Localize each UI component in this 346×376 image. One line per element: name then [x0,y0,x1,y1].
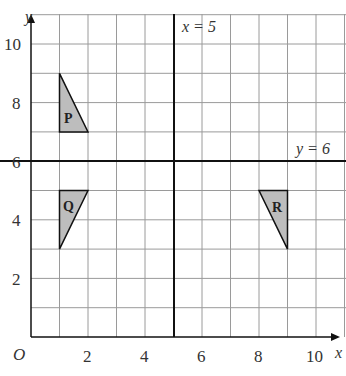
grid-lines [31,14,346,337]
x-axis-label: x [334,344,342,361]
x-tick-6: 6 [197,347,206,366]
y-tick-6: 6 [12,153,21,172]
y-tick-4: 4 [12,211,21,230]
x-tick-2: 2 [83,347,92,366]
y-tick-10: 10 [4,35,21,54]
label-x-5: x = 5 [181,18,216,35]
y-axis-label: y [23,8,33,26]
x-tick-10: 10 [306,347,323,366]
coordinate-grid: P Q R x = 5 y = 6 y x O 2 4 6 8 10 2 4 6… [0,0,346,376]
x-tick-4: 4 [140,347,149,366]
label-q: Q [63,199,74,214]
origin-label: O [13,345,25,364]
label-r: R [272,200,283,215]
label-y-6: y = 6 [294,140,330,158]
label-p: P [64,111,73,126]
x-axis-arrow-icon [331,333,340,341]
y-tick-8: 8 [12,94,21,113]
x-tick-8: 8 [254,347,263,366]
y-tick-2: 2 [12,270,21,289]
